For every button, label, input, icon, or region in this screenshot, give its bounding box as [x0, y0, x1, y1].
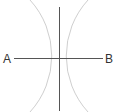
construction-arc-right	[66, 0, 88, 112]
point-label-a: A	[3, 52, 11, 66]
point-label-b: B	[105, 52, 113, 66]
bisector-diagram: A B	[0, 0, 116, 112]
construction-arc-left	[30, 0, 52, 112]
